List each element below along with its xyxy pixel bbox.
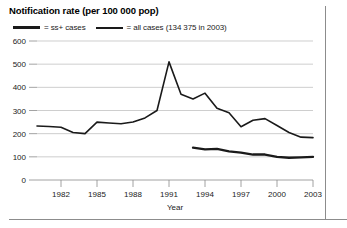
y-tick-label-0: 0 — [22, 176, 27, 185]
x-axis-tick-labels: 19821985198819911994199720002003 — [52, 190, 322, 199]
x-tick-label-1991: 1991 — [160, 190, 178, 199]
x-tick-label-1985: 1985 — [88, 190, 106, 199]
x-tick-label-1997: 1997 — [232, 190, 250, 199]
x-tick-label-1994: 1994 — [196, 190, 214, 199]
chart-svg: 0100200300400500600 19821985198819911994… — [0, 0, 347, 228]
page-divider-bottom — [9, 219, 347, 220]
x-tick-label-2000: 2000 — [268, 190, 286, 199]
x-axis-title: Year — [167, 203, 184, 212]
y-tick-label-200: 200 — [13, 130, 27, 139]
gridlines-group — [37, 41, 313, 180]
data-series-group — [37, 62, 313, 158]
y-tick-label-500: 500 — [13, 60, 27, 69]
y-axis-tick-labels: 0100200300400500600 — [13, 37, 37, 185]
page-divider-right — [325, 6, 326, 220]
plot-area: 0100200300400500600 19821985198819911994… — [0, 0, 347, 228]
x-tick-label-1988: 1988 — [124, 190, 142, 199]
y-tick-label-400: 400 — [13, 83, 27, 92]
figure-container: Notification rate (per 100 000 pop) = ss… — [0, 0, 347, 228]
x-tick-label-2003: 2003 — [304, 190, 322, 199]
x-tick-label-1982: 1982 — [52, 190, 70, 199]
y-tick-label-600: 600 — [13, 37, 27, 46]
series-line-all-cases — [37, 62, 313, 138]
x-axis-tick-marks — [61, 180, 313, 187]
series-line-ss-cases — [193, 148, 313, 158]
y-tick-label-300: 300 — [13, 107, 27, 116]
y-tick-label-100: 100 — [13, 153, 27, 162]
